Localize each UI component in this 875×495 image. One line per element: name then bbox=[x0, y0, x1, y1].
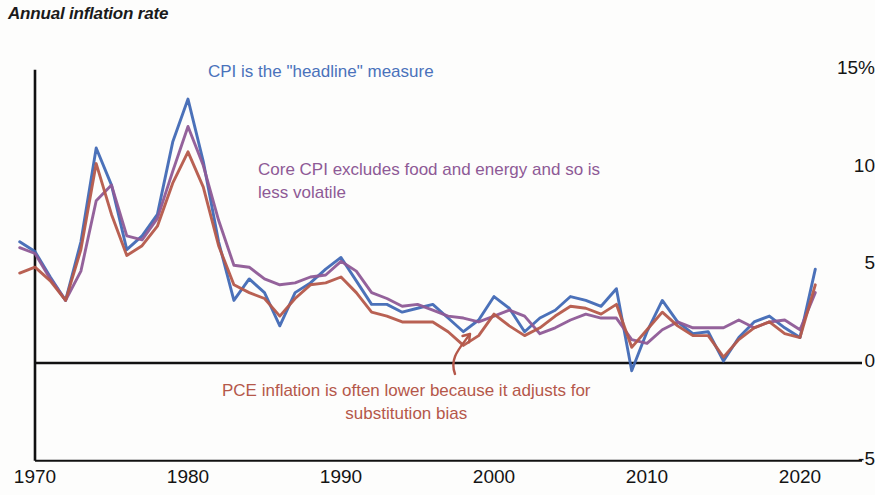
annotation-cpi: CPI is the "headline" measure bbox=[208, 60, 434, 83]
annotation-core-cpi: Core CPI excludes food and energy and so… bbox=[258, 158, 600, 204]
annotation-pce: PCE inflation is often lower because it … bbox=[222, 379, 591, 425]
inflation-rate-chart: Annual inflation rate 15%1050-5 19701980… bbox=[0, 0, 875, 495]
series-line-cpi bbox=[20, 99, 816, 371]
